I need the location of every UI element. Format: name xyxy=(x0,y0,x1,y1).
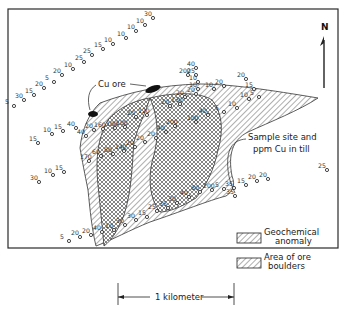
sample-site-value: 20 xyxy=(126,139,134,146)
legend: Geochemical anomaly Area of ore boulders xyxy=(237,227,319,271)
sample-site-value: 15 xyxy=(55,164,63,171)
sample-site-marker xyxy=(62,170,65,173)
sample-site-marker xyxy=(235,106,238,109)
sample-site-value: 10 xyxy=(117,30,125,37)
sample-site-marker xyxy=(198,190,201,193)
geochemical-map: Cu ore Sample site and ppm Cu in till N … xyxy=(0,0,352,313)
sample-site-value: 200 xyxy=(166,118,178,125)
sample-site-marker xyxy=(99,154,102,157)
sample-site-value: 80 xyxy=(104,146,112,153)
sample-site-value: 10 xyxy=(104,36,112,43)
sample-site-marker xyxy=(71,67,74,70)
sample-site-marker xyxy=(52,80,55,83)
sample-site-marker xyxy=(90,53,93,56)
sample-site-value: 40 xyxy=(187,60,195,67)
sample-site-marker xyxy=(145,113,148,116)
sample-site-marker xyxy=(123,125,126,128)
sample-site-value: 5 xyxy=(45,74,49,81)
sample-site-marker xyxy=(78,235,81,238)
sample-site-marker xyxy=(266,177,269,180)
sample-site-marker xyxy=(60,73,63,76)
sample-site-value: 15 xyxy=(237,177,245,184)
sample-site-value: 15 xyxy=(245,81,253,88)
cu-ore-label: Cu ore xyxy=(98,79,126,89)
sample-site-marker xyxy=(42,86,45,89)
sample-site-marker xyxy=(222,110,225,113)
sample-site-marker xyxy=(244,183,247,186)
sample-site-value: 5 xyxy=(5,98,9,105)
sample-site-marker xyxy=(151,16,154,19)
sample-site-marker xyxy=(222,84,225,87)
cu-ore-leader xyxy=(130,84,146,86)
sample-site-marker xyxy=(145,215,148,218)
sample-site-marker xyxy=(194,92,197,95)
sample-site-value: 30 xyxy=(168,195,176,202)
sample-site-value: 20 xyxy=(187,86,195,93)
sample-site-value: 35 xyxy=(226,188,234,195)
sample-site-marker xyxy=(325,168,328,171)
sample-site-marker xyxy=(187,195,190,198)
sample-site-marker xyxy=(183,95,186,98)
sample-site-value: 40 xyxy=(93,224,101,231)
sample-site-value: 20 xyxy=(161,98,169,105)
sample-site-value: 30 xyxy=(127,212,135,219)
sample-site-value: 10 xyxy=(64,61,72,68)
sample-site-marker xyxy=(210,188,213,191)
sample-site-marker xyxy=(111,42,114,45)
sample-site-marker xyxy=(155,209,158,212)
sample-site-marker xyxy=(67,239,70,242)
north-label: N xyxy=(321,22,329,32)
sample-site-value: 200 xyxy=(203,182,215,189)
sample-site-value: 10 xyxy=(136,17,144,24)
sample-site-marker xyxy=(12,104,15,107)
sample-site-marker xyxy=(206,113,209,116)
sample-site-value: 60 xyxy=(92,148,100,155)
sample-site-value: 40 xyxy=(157,124,165,131)
legend-swatch-ore-boulders xyxy=(237,258,261,268)
sample-site-value: 20 xyxy=(147,130,155,137)
sample-site-value: 15 xyxy=(138,209,146,216)
sample-site-value: 20 xyxy=(248,173,256,180)
sample-site-value: 170 xyxy=(80,153,92,160)
legend-label-geochemical-anomaly-2: anomaly xyxy=(275,236,312,246)
sample-site-marker xyxy=(196,80,199,83)
sample-site-marker xyxy=(134,218,137,221)
sample-site-value: 20 xyxy=(71,229,79,236)
sample-site-marker xyxy=(166,206,169,209)
sample-site-value: 30 xyxy=(30,174,38,181)
sample-site-value: 30 xyxy=(144,10,152,17)
sample-site-value: 20 xyxy=(35,80,43,87)
sample-site-value: 5 xyxy=(250,89,254,96)
sample-site-value: 5 xyxy=(215,181,219,188)
sample-site-value: 20 xyxy=(259,171,267,178)
sample-site-label-line2: ppm Cu in till xyxy=(253,144,310,154)
sample-site-value: 10 xyxy=(43,126,51,133)
sample-site-marker xyxy=(168,104,171,107)
sample-site-marker xyxy=(50,132,53,135)
sample-site-marker xyxy=(247,97,250,100)
sample-site-value: 80 xyxy=(191,184,199,191)
sample-site-marker xyxy=(84,134,87,137)
sample-site-marker xyxy=(111,152,114,155)
sample-site-value: 5 xyxy=(60,233,64,240)
sample-site-marker xyxy=(51,173,54,176)
sample-site-marker xyxy=(196,87,199,90)
cu-ore-leader xyxy=(88,85,96,110)
sample-site-marker xyxy=(87,159,90,162)
sample-site-value: 20 xyxy=(82,227,90,234)
sample-site-marker xyxy=(123,223,126,226)
cu-ore-body xyxy=(88,111,98,117)
sample-site-value: 10 xyxy=(228,100,236,107)
sample-site-value: 15 xyxy=(29,135,37,142)
sample-site-value: 100 xyxy=(187,114,199,121)
sample-site-marker xyxy=(124,36,127,39)
sample-site-value: 15 xyxy=(25,87,33,94)
sample-site-value: 40 xyxy=(180,189,188,196)
sample-site-value: 15 xyxy=(54,123,62,130)
sample-site-marker xyxy=(32,93,35,96)
sample-site-value: 10 xyxy=(105,222,113,229)
sample-site-value: 10 xyxy=(240,91,248,98)
scale-bar-label: 1 kilometer xyxy=(155,292,204,302)
sample-site-value: 20 xyxy=(53,67,61,74)
sample-site-marker xyxy=(212,87,215,90)
